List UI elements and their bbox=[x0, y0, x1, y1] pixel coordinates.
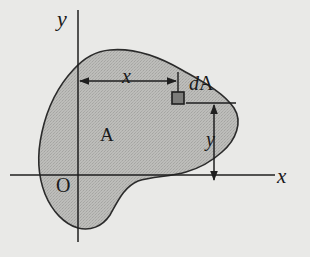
dA-label-d-part: d bbox=[189, 72, 199, 94]
figure-canvas: y x O A x y dA bbox=[0, 0, 310, 257]
dimension-x-label: x bbox=[122, 66, 131, 86]
dimension-y-label: y bbox=[206, 129, 215, 149]
area-label: A bbox=[100, 125, 114, 144]
y-axis-label: y bbox=[57, 8, 67, 30]
dA-element-square bbox=[172, 92, 184, 104]
dA-label-a-part: A bbox=[199, 72, 213, 94]
dA-element-label: dA bbox=[189, 73, 213, 93]
origin-label: O bbox=[56, 175, 70, 195]
x-axis-label: x bbox=[277, 166, 286, 187]
diagram-svg bbox=[0, 0, 310, 257]
